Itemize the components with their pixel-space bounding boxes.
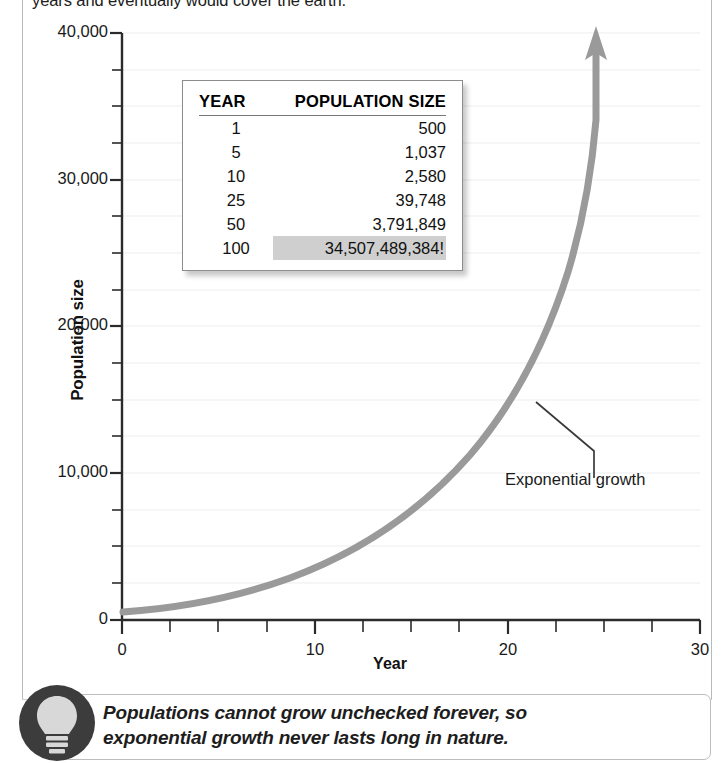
table-header-row: YEAR POPULATION SIZE <box>199 90 446 116</box>
y-tick-label-0: 0 <box>0 609 108 628</box>
caption-text: Populations cannot grow unchecked foreve… <box>103 700 703 750</box>
column-header-year: YEAR <box>199 90 273 116</box>
table-row: 25 39,748 <box>199 188 446 212</box>
cell-population: 3,791,849 <box>273 212 446 236</box>
y-tick-label-20000: 20,000 <box>0 315 108 334</box>
table-row: 5 1,037 <box>199 140 446 164</box>
x-tick-label-30: 30 <box>670 640 723 659</box>
cell-year: 5 <box>199 140 273 164</box>
cell-year: 100 <box>199 236 273 260</box>
x-axis-title: Year <box>120 655 660 673</box>
y-axis-title: Population size <box>68 240 88 440</box>
exponential-growth-chart: 40,000 30,000 20,000 10,000 0 0 10 20 30… <box>0 0 723 700</box>
cell-population: 2,580 <box>273 164 446 188</box>
cell-year: 25 <box>199 188 273 212</box>
table-row-highlighted: 100 34,507,489,384! <box>199 236 446 260</box>
figure-page: years and eventually would cover the ear… <box>0 0 723 763</box>
cell-population-highlighted: 34,507,489,384! <box>273 236 446 260</box>
exponential-growth-annotation: Exponential growth <box>505 470 645 489</box>
cell-population: 500 <box>273 116 446 141</box>
population-table: YEAR POPULATION SIZE 1 500 5 1,037 10 <box>199 90 446 260</box>
cell-population: 1,037 <box>273 140 446 164</box>
x-axis-minor-ticks <box>170 620 652 632</box>
y-tick-label-10000: 10,000 <box>0 462 108 481</box>
y-tick-label-40000: 40,000 <box>0 22 108 41</box>
table-head: YEAR POPULATION SIZE <box>199 90 446 116</box>
y-tick-label-30000: 30,000 <box>0 169 108 188</box>
column-header-population: POPULATION SIZE <box>273 90 446 116</box>
table-body: 1 500 5 1,037 10 2,580 25 39,748 <box>199 116 446 261</box>
table-row: 1 500 <box>199 116 446 141</box>
lightbulb-icon <box>19 683 95 763</box>
caption-line-2: exponential growth never lasts long in n… <box>103 725 703 750</box>
population-data-table: YEAR POPULATION SIZE 1 500 5 1,037 10 <box>182 80 463 271</box>
caption-line-1: Populations cannot grow unchecked foreve… <box>103 700 703 725</box>
cell-year: 50 <box>199 212 273 236</box>
table-row: 10 2,580 <box>199 164 446 188</box>
cell-year: 1 <box>199 116 273 141</box>
y-axis-major-ticks <box>110 33 122 620</box>
cell-year: 10 <box>199 164 273 188</box>
table-row: 50 3,791,849 <box>199 212 446 236</box>
annotation-leader-line <box>536 402 594 478</box>
cell-population: 39,748 <box>273 188 446 212</box>
